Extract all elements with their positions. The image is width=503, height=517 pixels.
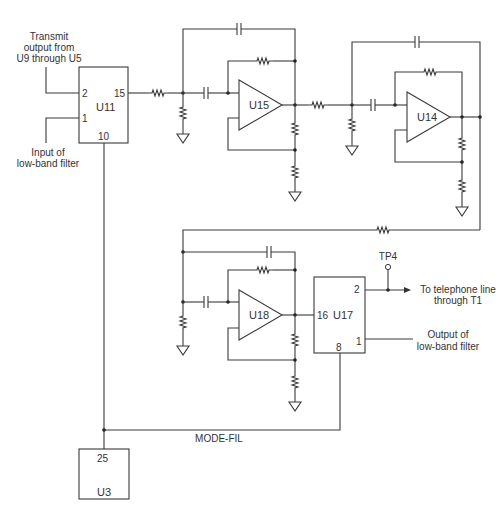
resistor-icon — [180, 103, 186, 123]
resistor-icon — [253, 58, 273, 64]
u17-ref-label: U17 — [333, 309, 353, 321]
resistor-icon — [148, 90, 168, 96]
u11-pin-1-label: 1 — [82, 113, 88, 124]
resistor-icon — [459, 134, 465, 154]
transmit-wire — [46, 67, 79, 93]
resistor-icon — [180, 312, 186, 332]
ground-icon — [289, 402, 301, 411]
resistor-icon — [292, 330, 298, 350]
u14-ref-label: U14 — [417, 111, 437, 123]
resistor-icon — [459, 176, 465, 196]
stage-u14: U14 — [346, 36, 482, 230]
resistor-icon — [292, 372, 298, 392]
circuit-schematic: 2 1 15 U11 10 Transmit output from U9 th… — [0, 0, 503, 517]
lowband-output-label-line1: Output of — [427, 329, 468, 340]
ground-icon — [177, 346, 189, 355]
resistor-icon — [420, 69, 440, 75]
resistor-icon — [292, 162, 298, 182]
arrow-right-icon — [404, 287, 411, 293]
stage-u15: U15 — [177, 23, 301, 201]
capacitor-icon — [267, 246, 271, 258]
mode-fil-wire — [104, 353, 340, 430]
tp4-label: TP4 — [379, 251, 398, 262]
u15-ref-label: U15 — [249, 99, 269, 111]
mode-fil-label: MODE-FIL — [195, 433, 243, 444]
u17-pin-2-label: 2 — [354, 284, 360, 295]
u17-pin-16-label: 16 — [317, 310, 329, 321]
u11-pin-10-label: 10 — [98, 131, 110, 142]
lowband-input-label-line1: Input of — [31, 147, 65, 158]
u11-switch: 2 1 15 U11 10 — [79, 67, 128, 143]
capacitor-icon — [204, 296, 208, 308]
ground-icon — [177, 134, 189, 143]
u18-ref-label: U18 — [249, 309, 269, 321]
resistor-icon — [292, 119, 298, 139]
lowband-output-label-line2: low-band filter — [417, 341, 480, 352]
lowband-input-wire — [46, 118, 79, 143]
telephone-label-line1: To telephone line — [420, 284, 496, 295]
u3-pin-25-label: 25 — [97, 453, 109, 464]
u17-pin-8-label: 8 — [336, 342, 342, 353]
u11-pin-2-label: 2 — [82, 88, 88, 99]
ground-icon — [346, 146, 358, 155]
u11-ref-label: U11 — [96, 101, 115, 113]
capacitor-icon — [237, 23, 241, 35]
resistor-icon — [373, 227, 393, 233]
u3-ref-label: U3 — [97, 486, 111, 498]
ground-icon — [289, 192, 301, 201]
u17-pin-1-label: 1 — [356, 336, 362, 347]
transmit-label-line2: output from — [24, 42, 75, 53]
capacitor-icon — [371, 99, 375, 111]
resistor-icon — [308, 102, 328, 108]
test-point-icon — [385, 264, 390, 269]
lowband-input-label-line2: low-band filter — [17, 158, 80, 169]
ground-icon — [456, 207, 468, 216]
resistor-icon — [253, 267, 273, 273]
transmit-label-line1: Transmit — [30, 31, 69, 42]
capacitor-icon — [204, 87, 208, 99]
u17-switch: 2 16 U17 1 8 — [314, 277, 365, 353]
stage-u18: U18 — [177, 246, 314, 411]
telephone-label-line2: through T1 — [434, 295, 483, 306]
transmit-label-line3: U9 through U5 — [16, 53, 81, 64]
capacitor-icon — [415, 36, 419, 48]
u3-controller: 25 U3 — [79, 449, 129, 499]
u11-pin-15-label: 15 — [114, 88, 126, 99]
resistor-icon — [349, 115, 355, 135]
